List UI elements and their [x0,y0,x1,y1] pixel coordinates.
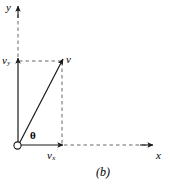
vy-component-label: vy [2,55,10,67]
resultant-velocity-label: v [66,54,71,65]
vx-label-subscript: x [52,154,55,161]
vector-decomposition-figure: y x vy vx v θ (b) [0,0,170,185]
x-axis-label: x [156,150,161,161]
vx-component-label: vx [47,150,55,162]
angle-theta-label: θ [30,130,36,141]
vy-label-subscript: y [7,59,10,66]
vector-diagram-canvas [0,0,170,185]
resultant-velocity-vector [20,59,64,143]
y-axis-label: y [6,2,11,13]
origin-marker [14,142,21,149]
figure-caption: (b) [96,166,110,178]
